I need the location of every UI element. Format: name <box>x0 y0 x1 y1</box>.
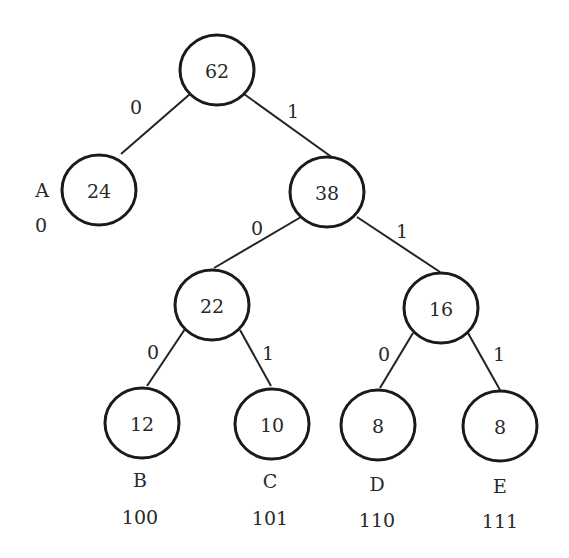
node-38-weight: 38 <box>315 184 339 203</box>
edge-bit-16-d: 0 <box>378 345 390 364</box>
edge-bit-38-22: 0 <box>251 219 263 238</box>
node-16-weight: 16 <box>429 300 453 319</box>
node-e-weight: 8 <box>494 418 506 437</box>
node-d-weight: 8 <box>372 417 384 436</box>
edge-bit-38-16: 1 <box>396 222 408 241</box>
node-b-weight: 12 <box>130 415 154 434</box>
leaf-code-a: 0 <box>35 216 47 235</box>
leaf-symbol-a: A <box>35 181 49 200</box>
node-a-weight: 24 <box>87 182 111 201</box>
leaf-code-c: 101 <box>252 509 288 528</box>
node-root-weight: 62 <box>205 62 229 81</box>
leaf-symbol-d: D <box>369 475 384 494</box>
node-22-weight: 22 <box>200 297 224 316</box>
edge-bit-root-a: 0 <box>130 98 142 117</box>
leaf-symbol-e: E <box>493 477 507 496</box>
leaf-code-b: 100 <box>122 508 158 527</box>
edge-bit-root-38: 1 <box>287 102 299 121</box>
leaf-symbol-b: B <box>133 471 147 490</box>
node-c-weight: 10 <box>260 416 284 435</box>
leaf-code-e: 111 <box>482 512 518 531</box>
leaf-code-d: 110 <box>359 511 395 530</box>
edge-bit-16-e: 1 <box>493 345 505 364</box>
leaf-symbol-c: C <box>263 472 278 491</box>
edge-bit-22-c: 1 <box>262 344 274 363</box>
huffman-tree-diagram <box>0 0 569 558</box>
edge-bit-22-b: 0 <box>147 343 159 362</box>
